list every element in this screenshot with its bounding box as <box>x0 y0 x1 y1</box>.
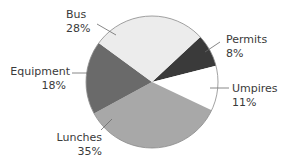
label-equipment-value: 18% <box>6 79 70 93</box>
label-umpires: Umpires 11% <box>232 82 278 110</box>
label-umpires-value: 11% <box>232 96 278 110</box>
label-equipment: Equipment 18% <box>6 65 70 93</box>
label-bus-name: Bus <box>66 8 90 22</box>
label-equipment-name: Equipment <box>6 65 70 79</box>
label-permits: Permits 8% <box>226 33 267 61</box>
label-permits-name: Permits <box>226 33 267 47</box>
pie-slices <box>86 16 218 148</box>
label-permits-value: 8% <box>226 47 267 61</box>
label-lunches: Lunches 35% <box>52 131 102 159</box>
label-bus: Bus 28% <box>66 8 90 36</box>
label-lunches-name: Lunches <box>52 131 102 145</box>
label-lunches-value: 35% <box>52 145 102 159</box>
label-umpires-name: Umpires <box>232 82 278 96</box>
label-bus-value: 28% <box>66 22 90 36</box>
